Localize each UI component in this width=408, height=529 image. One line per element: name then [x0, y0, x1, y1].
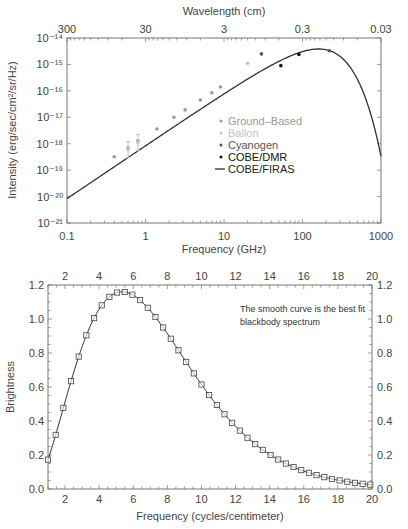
data-point-cyanogen — [260, 52, 264, 56]
data-marker — [199, 382, 204, 387]
data-point-ground-based — [112, 155, 116, 159]
x-tick-label: 8 — [164, 493, 170, 505]
data-point-ground-based — [199, 98, 203, 102]
x-tick-label-top: 8 — [164, 270, 170, 282]
data-marker — [352, 480, 357, 485]
y-tick-label: 10⁻¹⁹ — [36, 164, 63, 176]
y-tick-label: 10⁻²¹ — [37, 217, 63, 229]
annotation-line-1: The smooth curve is the best fit — [240, 304, 366, 314]
data-marker — [153, 314, 158, 319]
data-marker — [130, 292, 135, 297]
x-tick-label: 10 — [218, 230, 230, 242]
data-marker — [299, 468, 304, 473]
top-tick-label: 0.03 — [370, 23, 391, 35]
data-marker — [99, 303, 104, 308]
data-point-ground-based — [219, 85, 223, 89]
x-tick-label-top: 4 — [96, 270, 102, 282]
annotation-line-2: blackbody spectrum — [240, 317, 320, 327]
y-tick-label: 0.2 — [29, 449, 44, 461]
data-marker — [360, 481, 365, 486]
data-point-ballon — [136, 141, 140, 145]
data-point-ballon — [126, 148, 130, 152]
data-marker — [76, 354, 81, 359]
legend-marker — [220, 120, 223, 123]
data-marker — [329, 476, 334, 481]
x-tick-label: 10 — [195, 493, 207, 505]
data-marker — [222, 412, 227, 417]
x-tick-label: 1 — [142, 230, 148, 242]
y-tick-label-right: 1.0 — [377, 313, 392, 325]
data-marker — [137, 298, 142, 303]
y-tick-label-right: 0.8 — [377, 347, 392, 359]
data-marker — [107, 294, 112, 299]
data-marker — [314, 473, 319, 478]
top-axis-title: Wavelength (cm) — [183, 5, 266, 17]
legend-label: COBE/FIRAS — [228, 163, 295, 175]
y-tick-label: 0.6 — [29, 381, 44, 393]
data-marker — [230, 420, 235, 425]
top-tick-label: 30 — [139, 23, 151, 35]
x-tick-label: 18 — [332, 493, 344, 505]
y-tick-label: 1.2 — [29, 279, 44, 291]
data-marker — [184, 359, 189, 364]
legend-marker — [220, 144, 223, 147]
data-marker — [84, 333, 89, 338]
y-tick-label-right: 0.4 — [377, 415, 392, 427]
y-tick-label: 10⁻¹⁶ — [37, 85, 63, 97]
bottom-plot-area: 224466881010121214141616181820200.00.00.… — [29, 270, 393, 505]
data-marker — [345, 479, 350, 484]
data-point-cobe-dmr — [279, 64, 283, 68]
data-marker — [276, 457, 281, 462]
data-marker — [214, 402, 219, 407]
data-marker — [306, 470, 311, 475]
x-tick-label: 100 — [293, 230, 311, 242]
data-marker — [253, 442, 258, 447]
x-tick-label: 4 — [96, 493, 102, 505]
legend-label: Ballon — [228, 127, 259, 139]
data-marker — [368, 482, 373, 487]
y-tick-label: 10⁻²⁰ — [37, 191, 64, 203]
y-tick-label-right: 0.2 — [377, 449, 392, 461]
x-tick-label-top: 6 — [130, 270, 136, 282]
x-tick-label-top: 14 — [264, 270, 276, 282]
legend-marker — [220, 156, 223, 159]
x-tick-label: 6 — [130, 493, 136, 505]
legend-label: Cyanogen — [228, 139, 278, 151]
plot-frame — [67, 38, 381, 223]
y-tick-label-right: 1.2 — [377, 279, 392, 291]
data-point-ground-based — [155, 127, 159, 131]
x-tick-label-top: 12 — [229, 270, 241, 282]
data-marker — [191, 371, 196, 376]
top-tick-label: 0.3 — [295, 23, 310, 35]
firas-curve — [67, 49, 381, 199]
data-point-ballon — [246, 62, 250, 66]
data-point-ground-based — [172, 115, 176, 119]
y-tick-label: 10⁻¹⁷ — [37, 111, 63, 123]
data-marker — [53, 432, 58, 437]
top-plot-area: 0.111010010003003030.30.0310⁻¹⁴10⁻¹⁵10⁻¹… — [36, 23, 393, 242]
data-marker — [237, 428, 242, 433]
x-axis-title-bottom: Frequency (cycles/centimeter) — [136, 510, 283, 522]
x-tick-label-top: 2 — [62, 270, 68, 282]
x-tick-label: 16 — [298, 493, 310, 505]
x-tick-label: 2 — [62, 493, 68, 505]
data-marker — [176, 348, 181, 353]
data-point-cyanogen — [328, 49, 332, 53]
x-tick-label: 12 — [229, 493, 241, 505]
plot-frame — [48, 285, 372, 489]
data-marker — [268, 452, 273, 457]
x-tick-label-top: 16 — [298, 270, 310, 282]
y-tick-label: 1.0 — [29, 313, 44, 325]
data-marker — [91, 316, 96, 321]
y-tick-label: 10⁻¹⁴ — [36, 32, 63, 44]
data-marker — [122, 289, 127, 294]
x-tick-label: 1000 — [369, 230, 393, 242]
data-marker — [245, 435, 250, 440]
y-tick-label: 0.8 — [29, 347, 44, 359]
x-tick-label-top: 18 — [332, 270, 344, 282]
y-tick-label: 0.0 — [29, 483, 44, 495]
x-axis-title: Frequency (GHz) — [182, 243, 266, 255]
y-tick-label: 0.4 — [29, 415, 44, 427]
data-marker — [45, 457, 50, 462]
y-tick-label-right: 0.6 — [377, 381, 392, 393]
